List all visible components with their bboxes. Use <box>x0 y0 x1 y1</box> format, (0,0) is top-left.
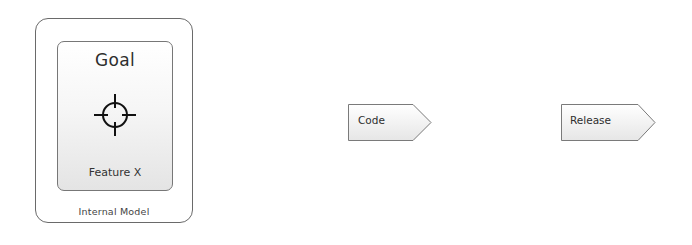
internal-model-label: Internal Model <box>35 206 193 217</box>
code-step-label: Code <box>358 114 385 126</box>
goal-title: Goal <box>57 50 173 70</box>
release-step-label: Release <box>570 114 611 126</box>
crosshair-target-icon <box>91 91 139 139</box>
feature-label: Feature X <box>57 166 173 179</box>
